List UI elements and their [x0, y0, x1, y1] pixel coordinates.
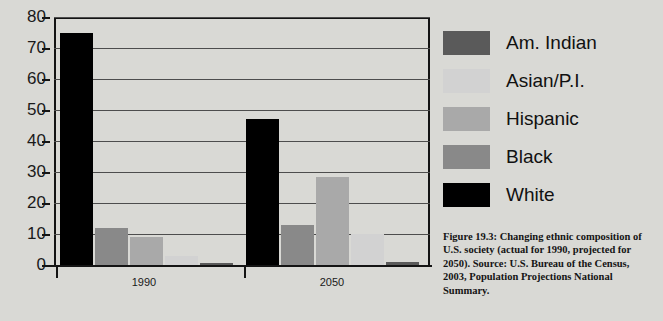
bars-layer	[56, 17, 430, 265]
bar	[246, 119, 279, 265]
x-axis-tick-mark	[56, 267, 58, 278]
legend: Am. IndianAsian/P.I.HispanicBlackWhite	[443, 24, 653, 214]
y-axis-tick-label: 40	[12, 132, 46, 149]
y-axis-tick-mark	[42, 17, 50, 19]
y-axis-tick-mark	[42, 110, 50, 112]
y-axis-tick-label: 50	[12, 101, 46, 118]
legend-swatch	[443, 107, 490, 131]
bar	[386, 262, 419, 265]
x-axis-category-label: 2050	[292, 276, 372, 288]
bar	[165, 256, 198, 265]
y-axis-tick-mark	[42, 172, 50, 174]
y-axis-tick-label: 0	[12, 256, 46, 273]
bar	[351, 234, 384, 265]
chart-area: 01020304050607080 19902050	[0, 0, 436, 300]
y-axis-tick-label: 20	[12, 194, 46, 211]
legend-item: Asian/P.I.	[443, 62, 653, 100]
legend-label: Am. Indian	[506, 32, 597, 54]
bar	[60, 33, 93, 266]
legend-item: Am. Indian	[443, 24, 653, 62]
legend-label: Black	[506, 146, 552, 168]
y-axis-tick-label: 60	[12, 70, 46, 87]
bar	[95, 228, 128, 265]
y-axis-tick-mark	[42, 234, 50, 236]
legend-label: White	[506, 184, 555, 206]
legend-item: Black	[443, 138, 653, 176]
y-axis-tick-mark	[42, 141, 50, 143]
bar	[281, 225, 314, 265]
legend-swatch	[443, 145, 490, 169]
bar	[200, 263, 233, 265]
y-axis-tick-mark	[42, 203, 50, 205]
x-axis-baseline	[44, 265, 432, 267]
y-axis: 01020304050607080	[4, 17, 46, 265]
y-axis-tick-label: 30	[12, 163, 46, 180]
legend-label: Asian/P.I.	[506, 70, 585, 92]
y-axis-tick-mark	[42, 48, 50, 50]
legend-swatch	[443, 183, 490, 207]
y-axis-tick-label: 10	[12, 225, 46, 242]
legend-item: Hispanic	[443, 100, 653, 138]
legend-swatch	[443, 69, 490, 93]
y-axis-tick-mark	[42, 79, 50, 81]
legend-swatch	[443, 31, 490, 55]
legend-label: Hispanic	[506, 108, 579, 130]
bar	[316, 177, 349, 265]
y-axis-tick-label: 80	[12, 8, 46, 25]
x-axis-category-label: 1990	[104, 276, 184, 288]
x-axis-tick-mark	[244, 267, 246, 278]
legend-item: White	[443, 176, 653, 214]
bar	[130, 237, 163, 265]
figure-caption: Figure 19.3: Changing ethnic composition…	[443, 230, 648, 297]
y-axis-tick-label: 70	[12, 39, 46, 56]
figure-container: 01020304050607080 19902050 Am. IndianAsi…	[0, 0, 663, 321]
